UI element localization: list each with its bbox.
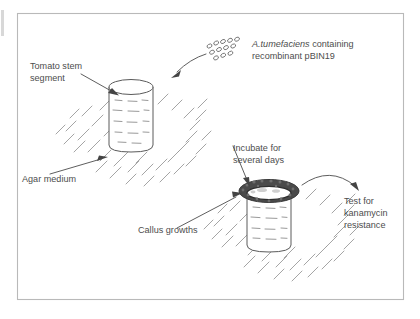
label-tomato-stem-line2: segment — [30, 73, 65, 83]
figure-frame — [18, 14, 404, 300]
label-tomato-stem-line1: Tomato stem — [30, 61, 82, 71]
tomato-stem-segment-cylinder — [109, 80, 153, 153]
label-test-line3: resistance — [344, 220, 385, 230]
label-bacteria-containing: containing — [310, 39, 354, 49]
figure-root: Tomato stem segment A.tumefaciens contai… — [0, 0, 420, 319]
label-test-line1: Test for — [344, 196, 374, 206]
diagram-canvas: Tomato stem segment A.tumefaciens contai… — [0, 0, 420, 319]
label-incubate-line1: Incubate for — [233, 143, 281, 153]
label-test-line2: kanamycin — [344, 208, 387, 218]
label-callus-growths: Callus growths — [138, 225, 198, 235]
scan-artifact-mark — [1, 10, 4, 36]
label-agar-medium: Agar medium — [22, 174, 76, 184]
label-incubate-line2: several days — [233, 155, 285, 165]
label-bacteria-line1: A.tumefaciens containing — [251, 39, 354, 49]
label-bacteria-species: A.tumefaciens — [251, 39, 310, 49]
label-bacteria-line2: recombinant pBIN19 — [252, 51, 335, 61]
